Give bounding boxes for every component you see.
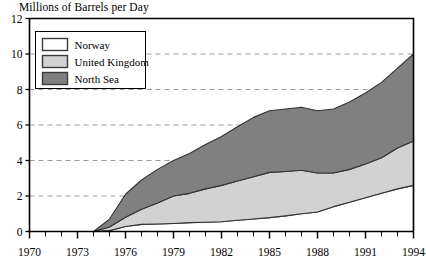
legend-label-north-sea: North Sea xyxy=(75,73,119,85)
y-tick-label-8: 8 xyxy=(17,84,23,96)
x-tick-label-1982: 1982 xyxy=(210,246,233,258)
y-tick-label-0: 0 xyxy=(17,226,23,238)
x-tick-label-1973: 1973 xyxy=(66,246,89,258)
legend-swatch-north-sea xyxy=(43,73,68,85)
y-axis-ticks-group: 024681012 xyxy=(11,13,30,238)
y-tick-label-2: 2 xyxy=(17,190,23,202)
x-axis-ticks-group: 197019731976197919821985198819911994 xyxy=(18,232,425,258)
x-tick-label-1991: 1991 xyxy=(354,246,377,258)
legend-label-norway: Norway xyxy=(75,39,111,51)
chart-legend: NorwayUnited KingdomNorth Sea xyxy=(36,32,150,89)
chart-container: Millions of Barrels per Day 024681012 19… xyxy=(0,0,426,269)
x-tick-label-1970: 1970 xyxy=(18,246,41,258)
x-tick-label-1988: 1988 xyxy=(306,246,329,258)
x-tick-label-1976: 1976 xyxy=(114,246,137,258)
legend-swatch-norway xyxy=(43,39,68,51)
stacked-area-plot: 024681012 197019731976197919821985198819… xyxy=(0,0,426,269)
y-tick-label-12: 12 xyxy=(11,13,23,25)
x-tick-label-1985: 1985 xyxy=(258,246,281,258)
legend-swatch-united-kingdom xyxy=(43,56,68,68)
x-tick-label-1994: 1994 xyxy=(402,246,425,258)
y-tick-label-6: 6 xyxy=(17,119,23,131)
x-tick-label-1979: 1979 xyxy=(162,246,185,258)
legend-label-united-kingdom: United Kingdom xyxy=(75,56,150,68)
y-tick-label-10: 10 xyxy=(11,48,23,60)
y-tick-label-4: 4 xyxy=(17,155,23,167)
